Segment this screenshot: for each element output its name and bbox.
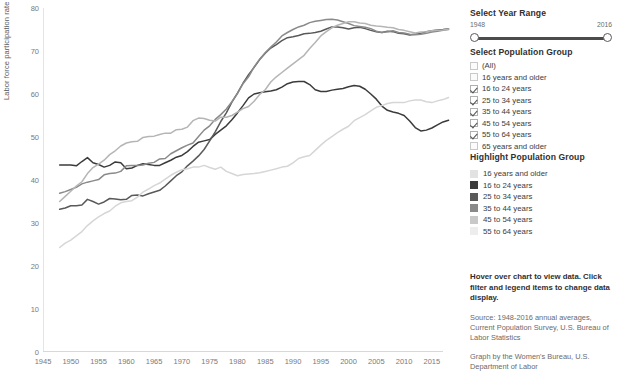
x-tick-label: 1950 [62, 357, 79, 366]
population-group-option-label: 25 to 34 years [482, 95, 531, 107]
legend-color-swatch[interactable] [470, 193, 478, 201]
checkbox-checked-icon[interactable] [470, 85, 478, 93]
year-range-filter: Select Year Range 1948 2016 [470, 8, 612, 44]
notes-panel: Hover over chart to view data. Click fil… [470, 272, 616, 373]
instructions-text: Hover over chart to view data. Click fil… [470, 272, 616, 304]
y-axis-label: Labor force participation rate (%) [2, 0, 11, 100]
legend-color-swatch[interactable] [470, 204, 478, 212]
checkbox-unchecked-icon[interactable] [470, 62, 478, 70]
y-tick-label: 70 [31, 47, 39, 56]
population-group-option-label: 35 to 44 years [482, 106, 531, 118]
population-group-option-label: 16 years and older [482, 72, 547, 84]
checkbox-checked-icon[interactable] [470, 131, 478, 139]
highlight-group-item-label: 55 to 64 years [483, 226, 532, 238]
x-tick-label: 1955 [90, 357, 107, 366]
checkbox-checked-icon[interactable] [470, 108, 478, 116]
legend-color-swatch[interactable] [470, 216, 478, 224]
x-tick-label: 1945 [35, 357, 52, 366]
population-group-option[interactable]: 16 to 24 years [470, 83, 612, 95]
x-tick-label: 1975 [201, 357, 218, 366]
line-series[interactable] [60, 27, 449, 209]
slider-handle-start[interactable] [470, 33, 479, 42]
legend-color-swatch[interactable] [470, 181, 478, 189]
x-tick-label: 2000 [340, 357, 357, 366]
dashboard-root: Labor force participation rate (%) 01020… [0, 0, 618, 373]
y-tick-label: 80 [31, 4, 39, 13]
highlight-group-item-label: 35 to 44 years [483, 203, 532, 215]
year-range-title: Select Year Range [470, 8, 612, 18]
year-range-endpoints: 1948 2016 [470, 21, 612, 31]
x-tick-label: 2010 [396, 357, 413, 366]
x-tick-label: 1980 [229, 357, 246, 366]
checkbox-unchecked-icon[interactable] [470, 73, 478, 81]
y-tick-label: 60 [31, 90, 39, 99]
year-range-slider[interactable] [470, 32, 612, 44]
population-group-list: (All)16 years and older16 to 24 years25 … [470, 60, 612, 152]
slider-handle-end[interactable] [603, 33, 612, 42]
highlight-group-item[interactable]: 35 to 44 years [470, 203, 612, 215]
highlight-group-item-label: 45 to 54 years [483, 214, 532, 226]
highlight-group-item[interactable]: 55 to 64 years [470, 226, 612, 238]
population-group-option-label: (All) [482, 60, 496, 72]
highlight-group-item[interactable]: 16 to 24 years [470, 180, 612, 192]
population-group-option[interactable]: (All) [470, 60, 612, 72]
population-group-option-label: 65 years and older [482, 141, 547, 153]
x-tick-label: 1985 [257, 357, 274, 366]
population-group-option[interactable]: 45 to 54 years [470, 118, 612, 130]
chart-panel: Labor force participation rate (%) 01020… [0, 0, 455, 373]
highlight-group-legend: Highlight Population Group 16 years and … [470, 152, 612, 237]
population-group-title: Select Population Group [470, 47, 612, 57]
checkbox-unchecked-icon[interactable] [470, 142, 478, 150]
population-group-option[interactable]: 16 years and older [470, 72, 612, 84]
population-group-filter: Select Population Group (All)16 years an… [470, 47, 612, 152]
highlight-group-title: Highlight Population Group [470, 152, 612, 162]
highlight-group-item[interactable]: 45 to 54 years [470, 214, 612, 226]
line-series[interactable] [60, 82, 449, 169]
year-range-end-label: 2016 [597, 21, 612, 28]
highlight-group-item-label: 16 to 24 years [483, 180, 532, 192]
x-tick-label: 1960 [118, 357, 135, 366]
legend-color-swatch[interactable] [470, 170, 478, 178]
credit-text: Graph by the Women's Bureau, U.S. Depart… [470, 352, 616, 372]
controls-panel: Select Year Range 1948 2016 Select Popul… [462, 0, 618, 373]
y-tick-label: 0 [35, 348, 39, 357]
population-group-option[interactable]: 35 to 44 years [470, 106, 612, 118]
population-group-option[interactable]: 25 to 34 years [470, 95, 612, 107]
population-group-option-label: 16 to 24 years [482, 83, 531, 95]
x-tick-label: 1995 [312, 357, 329, 366]
population-group-option[interactable]: 65 years and older [470, 141, 612, 153]
line-series-group [43, 8, 443, 352]
legend-color-swatch[interactable] [470, 227, 478, 235]
x-tick-label: 1990 [285, 357, 302, 366]
slider-track[interactable] [475, 37, 607, 40]
highlight-group-list: 16 years and older16 to 24 years25 to 34… [470, 168, 612, 237]
y-tick-label: 50 [31, 133, 39, 142]
population-group-option-label: 55 to 64 years [482, 129, 531, 141]
population-group-option-label: 45 to 54 years [482, 118, 531, 130]
highlight-group-item-label: 16 years and older [483, 168, 548, 180]
highlight-group-item-label: 25 to 34 years [483, 191, 532, 203]
source-text: Source: 1948-2016 annual averages, Curre… [470, 313, 616, 344]
y-tick-label: 20 [31, 262, 39, 271]
plot-area[interactable]: 01020304050607080 1945195019551960196519… [43, 8, 443, 352]
checkbox-checked-icon[interactable] [470, 119, 478, 127]
y-tick-label: 30 [31, 219, 39, 228]
year-range-start-label: 1948 [470, 21, 485, 28]
population-group-option[interactable]: 55 to 64 years [470, 129, 612, 141]
y-tick-label: 10 [31, 305, 39, 314]
y-tick-label: 40 [31, 176, 39, 185]
highlight-group-item[interactable]: 25 to 34 years [470, 191, 612, 203]
checkbox-checked-icon[interactable] [470, 96, 478, 104]
x-tick-label: 2005 [368, 357, 385, 366]
x-tick-label: 2015 [424, 357, 441, 366]
line-series[interactable] [60, 19, 449, 193]
x-tick-label: 1970 [174, 357, 191, 366]
highlight-group-item[interactable]: 16 years and older [470, 168, 612, 180]
x-tick-label: 1965 [146, 357, 163, 366]
